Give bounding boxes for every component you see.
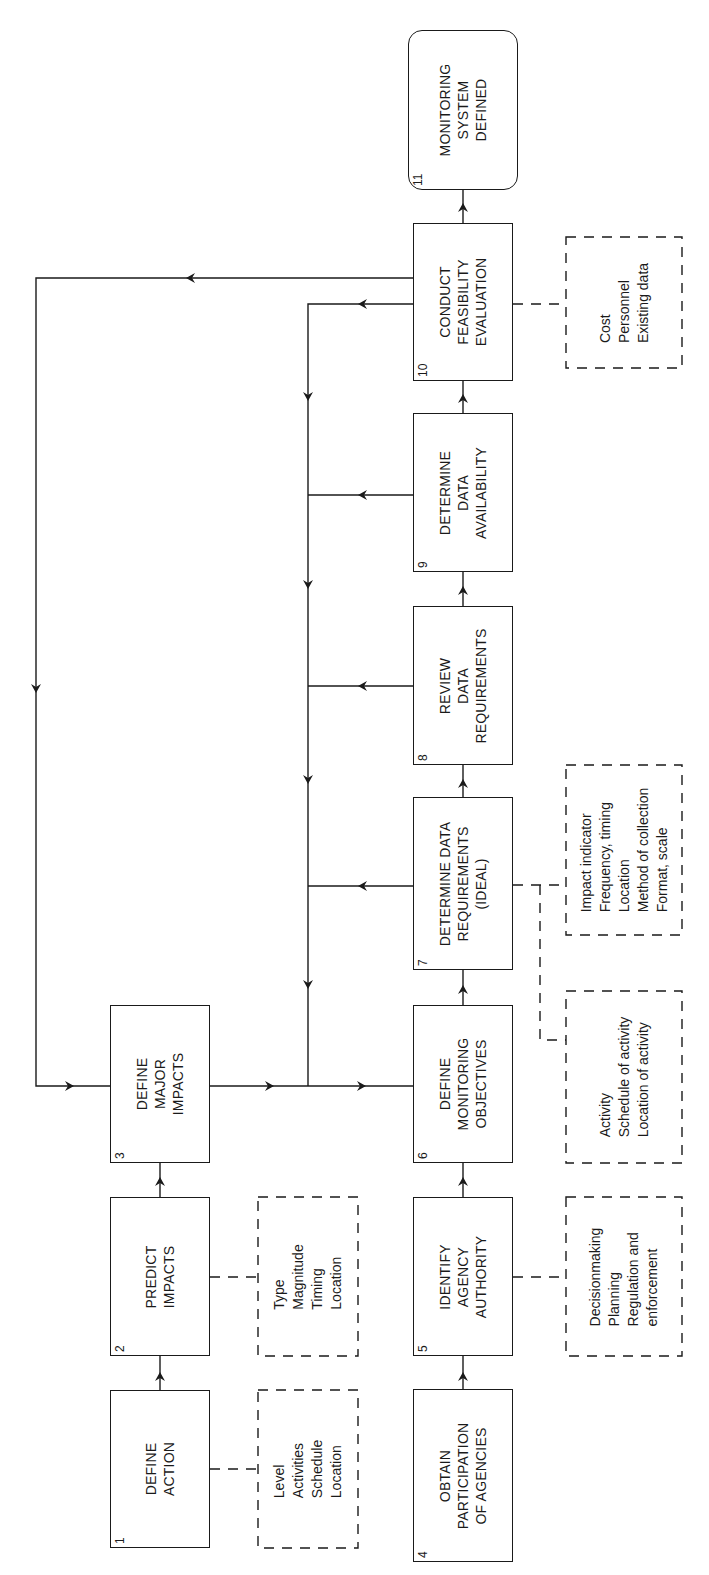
- note-activity: Activity Schedule of activity Location o…: [566, 991, 682, 1163]
- step-label: IDENTIFY AGENCY AUTHORITY: [436, 1235, 490, 1318]
- step-1-define-action: DEFINE ACTION 1: [110, 1390, 210, 1548]
- step-label: REVIEW DATA REQUIREMENTS: [436, 628, 490, 743]
- step-10-conduct-feasibility-evaluation: CONDUCT FEASIBILITY EVALUATION 10: [413, 223, 513, 381]
- step-8-review-data-requirements: REVIEW DATA REQUIREMENTS 8: [413, 606, 513, 765]
- step-number: 8: [417, 754, 429, 761]
- step-number: 2: [114, 1345, 126, 1352]
- step-3-define-major-impacts: DEFINE MAJOR IMPACTS 3: [110, 1005, 210, 1163]
- note-feasibility: Cost Personnel Existing data: [566, 237, 682, 368]
- note-agency-authority: Decisionmaking Planning Regulation and e…: [566, 1197, 682, 1356]
- note-predict-impacts: Type Magnitude Timing Location: [258, 1197, 358, 1356]
- step-4-obtain-participation: OBTAIN PARTICIPATION OF AGENCIES 4: [413, 1389, 513, 1562]
- step-label: DEFINE ACTION: [142, 1442, 178, 1496]
- step-label: DEFINE MAJOR IMPACTS: [133, 1053, 187, 1116]
- step-label: DEFINE MONITORING OBJECTIVES: [436, 1038, 490, 1131]
- step-label: DETERMINE DATA REQUIREMENTS (IDEAL): [436, 821, 490, 945]
- step-number: 3: [114, 1152, 126, 1159]
- step-label: MONITORING SYSTEM DEFINED: [436, 64, 490, 157]
- step-label: DETERMINE DATA AVAILABILITY: [436, 446, 490, 538]
- step-6-define-monitoring-objectives: DEFINE MONITORING OBJECTIVES 6: [413, 1005, 513, 1163]
- note-data-requirements: Impact indicator Frequency, timing Locat…: [566, 765, 682, 935]
- step-11-monitoring-system-defined: MONITORING SYSTEM DEFINED 11: [408, 30, 518, 190]
- step-number: 6: [417, 1152, 429, 1159]
- step-5-identify-agency-authority: IDENTIFY AGENCY AUTHORITY 5: [413, 1197, 513, 1356]
- step-label: PREDICT IMPACTS: [142, 1245, 178, 1308]
- step-number: 10: [417, 364, 429, 377]
- step-number: 5: [417, 1345, 429, 1352]
- step-number: 1: [114, 1537, 126, 1544]
- step-label: OBTAIN PARTICIPATION OF AGENCIES: [436, 1422, 490, 1529]
- step-label: CONDUCT FEASIBILITY EVALUATION: [436, 258, 490, 347]
- step-number: 9: [417, 561, 429, 568]
- step-9-determine-data-availability: DETERMINE DATA AVAILABILITY 9: [413, 413, 513, 572]
- step-number: 7: [417, 959, 429, 966]
- step-7-determine-data-requirements: DETERMINE DATA REQUIREMENTS (IDEAL) 7: [413, 797, 513, 970]
- step-2-predict-impacts: PREDICT IMPACTS 2: [110, 1197, 210, 1356]
- step-number: 11: [412, 174, 424, 186]
- step-number: 4: [417, 1551, 429, 1558]
- note-define-action: Level Activities Schedule Location: [258, 1390, 358, 1548]
